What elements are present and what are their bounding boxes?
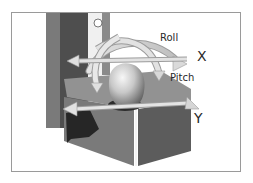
sphere bbox=[109, 63, 145, 108]
post-hole bbox=[94, 19, 102, 27]
x-axis-label: X bbox=[197, 48, 207, 64]
pitch-label: Pitch bbox=[170, 72, 194, 83]
roll-pitch-diagram: Roll X Pitch Y bbox=[12, 13, 241, 172]
diagram-frame: Roll X Pitch Y bbox=[11, 12, 241, 172]
y-axis-label: Y bbox=[193, 110, 203, 126]
roll-label: Roll bbox=[160, 32, 178, 43]
